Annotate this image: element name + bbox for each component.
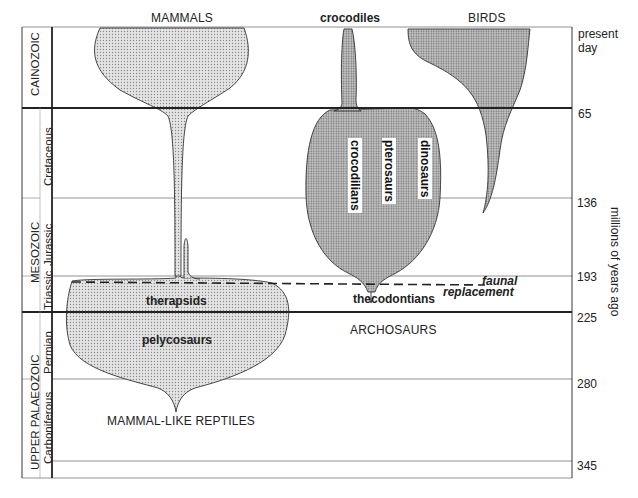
therapsids-label: therapsids (146, 294, 207, 308)
tick-225: 225 (577, 311, 597, 325)
pterosaurs-label: pterosaurs (382, 138, 396, 204)
period-permian: Permian (42, 331, 54, 374)
crocodiles-shape (334, 29, 361, 111)
period-cretaceous: Cretaceous (42, 127, 54, 186)
phylogeny-diagram (0, 0, 638, 498)
tick-65: 65 (578, 107, 591, 121)
era-cainozoic: CAINOZOIC (29, 32, 41, 96)
therapsid-branch (184, 239, 200, 280)
thecodontians-label: thecodontians (353, 292, 435, 306)
time-axis-title: millions of years ago (608, 207, 622, 316)
era-upper-palaeozoic: UPPER PALAEOZOIC (29, 355, 41, 470)
dinosaurs-label: dinosaurs (418, 138, 432, 199)
tick-193: 193 (577, 270, 597, 284)
birds-label: BIRDS (468, 11, 506, 25)
archosaurs-shape (306, 108, 441, 292)
period-carboniferous: Carboniferous (42, 392, 54, 464)
period-triassic: Triassic (42, 271, 54, 310)
crocodilians-label: crocodilians (348, 138, 362, 213)
tick-345: 345 (577, 459, 597, 473)
era-mesozoic: MESOZOIC (29, 222, 41, 283)
pelycosaurs-label: pelycosaurs (142, 333, 212, 347)
tick-280: 280 (577, 377, 597, 391)
period-jurassic: Jurassic (42, 224, 54, 266)
mammal-like-reptiles-label: MAMMAL-LIKE REPTILES (107, 414, 255, 428)
mammals-shape (95, 28, 249, 276)
replacement-label: replacement (443, 285, 514, 299)
archosaurs-label: ARCHOSAURS (350, 323, 437, 337)
tick-present: present (578, 27, 618, 41)
crocodiles-label: crocodiles (320, 11, 380, 25)
mammals-label: MAMMALS (151, 11, 213, 25)
tick-136: 136 (577, 196, 597, 210)
tick-present-day: day (578, 41, 597, 55)
